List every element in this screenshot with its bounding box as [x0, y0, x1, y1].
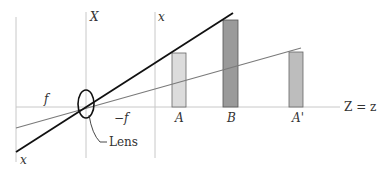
label-minus-f: −f — [114, 111, 131, 125]
label-X: X — [89, 10, 99, 24]
bar-B — [223, 20, 238, 107]
label-A-prime: A' — [291, 111, 304, 125]
thick-ray — [16, 13, 233, 152]
label-optical-axis: Z = z — [344, 100, 376, 114]
bar-A — [172, 53, 186, 107]
label-f: f — [43, 92, 51, 106]
bar-A-prime — [289, 52, 303, 107]
label-A: A — [174, 111, 184, 125]
label-x-top: x — [158, 10, 165, 24]
label-x-bottom: x — [20, 153, 27, 167]
label-B: B — [226, 111, 236, 125]
label-lens: Lens — [109, 135, 138, 149]
lens-leader-line — [89, 115, 107, 142]
lens-diagram: X x f −f A B A' Z = z Lens x — [0, 0, 387, 172]
